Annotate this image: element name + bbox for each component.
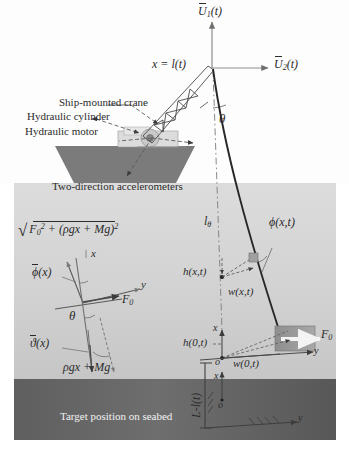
ship-hull	[55, 146, 195, 183]
seabed-region	[14, 379, 336, 440]
crane-cable-payload-figure: U1(t) U2(t) x = l(t) Ship-mounted crane …	[0, 0, 349, 463]
cable-element-marker	[249, 253, 258, 262]
figure-canvas	[0, 0, 349, 463]
seabed-origin-point	[220, 398, 223, 401]
